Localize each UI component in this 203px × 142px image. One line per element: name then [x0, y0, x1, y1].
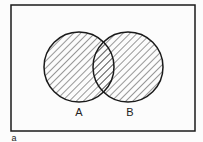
venn-diagram: A B a [0, 0, 203, 142]
set-b-label: B [126, 106, 133, 118]
set-a-label: A [75, 106, 83, 118]
figure-caption: a [11, 133, 16, 142]
venn-diagram-figure: A B a [0, 0, 203, 142]
